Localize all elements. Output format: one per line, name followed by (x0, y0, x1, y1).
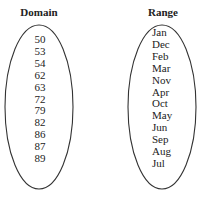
range-item: Nov (152, 75, 172, 87)
domain-item: 54 (33, 58, 47, 70)
range-item: Jul (152, 158, 172, 170)
domain-item: 89 (33, 153, 47, 165)
range-title: Range (140, 6, 186, 18)
domain-list: 50 53 54 62 63 72 79 82 86 87 89 (33, 34, 47, 165)
domain-title: Domain (16, 6, 62, 18)
range-item: Feb (152, 51, 172, 63)
range-list: Jan Dec Feb Mar Nov Apr Oct May Jun Sep … (152, 27, 172, 170)
range-item: Mar (152, 63, 172, 75)
domain-item: 63 (33, 82, 47, 94)
domain-item: 62 (33, 70, 47, 82)
ellipses (0, 0, 205, 198)
